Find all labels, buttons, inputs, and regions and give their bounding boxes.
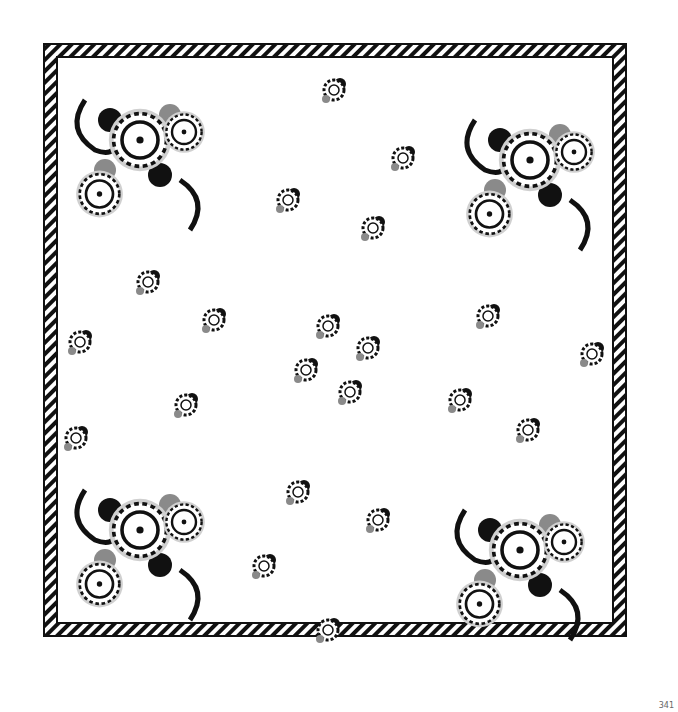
corner-cluster-top-right xyxy=(466,120,595,250)
corner-cluster-bottom-right xyxy=(456,510,585,640)
page-number: 341 xyxy=(659,701,674,710)
corner-cluster-top-left xyxy=(76,100,205,230)
scarf-illustration xyxy=(0,0,678,712)
corner-cluster-bottom-left xyxy=(76,490,205,620)
